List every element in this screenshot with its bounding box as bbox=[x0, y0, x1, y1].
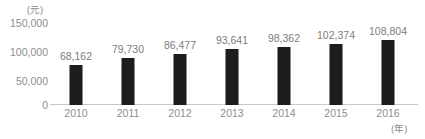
x-axis-tick-label: 2016 bbox=[362, 107, 414, 119]
x-axis-tick-label: 2013 bbox=[206, 107, 258, 119]
x-axis-tick-label: 2015 bbox=[310, 107, 362, 119]
x-axis-unit-label: (年) bbox=[391, 121, 407, 135]
x-axis-tick-label: 2011 bbox=[102, 107, 154, 119]
x-axis-tick-label: 2010 bbox=[50, 107, 102, 119]
bar-chart: (元) 150,000 100,000 50,000 0 68,162 79,7… bbox=[0, 0, 425, 139]
y-axis-tick-label: 0 bbox=[0, 99, 48, 111]
y-axis-tick-label: 50,000 bbox=[0, 75, 48, 87]
x-axis-tick-labels: 2010 2011 2012 2013 2014 2015 2016 bbox=[50, 0, 418, 139]
y-axis-tick-label: 100,000 bbox=[0, 46, 48, 58]
y-axis-tick-label: 150,000 bbox=[0, 17, 48, 29]
x-axis-tick-label: 2014 bbox=[258, 107, 310, 119]
x-axis-tick-label: 2012 bbox=[154, 107, 206, 119]
y-axis-tick-labels: 150,000 100,000 50,000 0 bbox=[0, 0, 48, 139]
